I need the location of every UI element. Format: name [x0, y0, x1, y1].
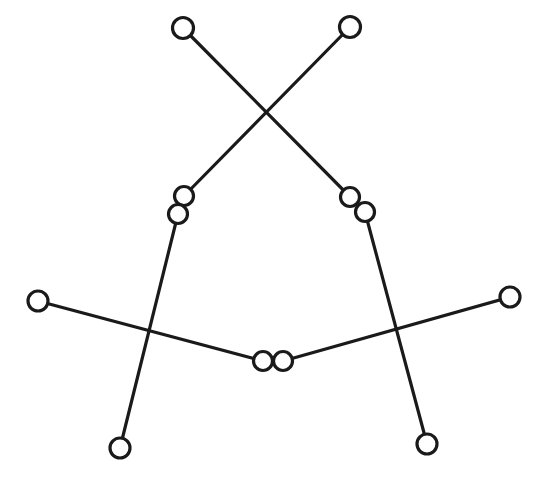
center-left-node[interactable] [254, 352, 273, 371]
bottom-left-node[interactable] [110, 438, 130, 458]
bottom-right-node[interactable] [417, 434, 437, 454]
mid-left-upper-node[interactable] [175, 187, 194, 206]
edge-topleft-to-midrightlower [183, 28, 365, 212]
edge-farright-to-centerright [283, 297, 510, 361]
mid-right-lower-node[interactable] [356, 203, 375, 222]
center-right-node[interactable] [274, 352, 293, 371]
diagram-svg [0, 0, 543, 484]
top-left-node[interactable] [173, 18, 194, 39]
edge-farleft-to-centerleft [38, 301, 263, 361]
far-right-node[interactable] [500, 287, 520, 307]
mid-right-upper-node[interactable] [341, 188, 360, 207]
edges-group [38, 27, 510, 448]
mid-left-lower-node[interactable] [169, 205, 188, 224]
diagram-canvas [0, 0, 543, 484]
top-right-node[interactable] [340, 17, 361, 38]
far-left-node[interactable] [28, 291, 48, 311]
nodes-group [28, 17, 520, 459]
